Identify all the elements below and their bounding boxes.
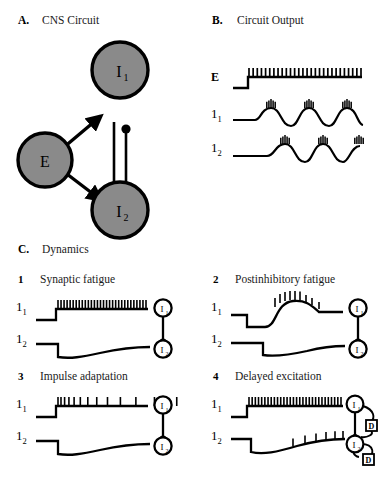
delay-box-upper: D <box>366 420 377 431</box>
svg-text:2: 2 <box>166 448 169 454</box>
node-i1: I 1 <box>92 42 148 98</box>
svg-text:2: 2 <box>124 212 129 223</box>
svg-text:2: 2 <box>358 446 361 452</box>
delay-box-lower-label: D <box>366 456 372 465</box>
panel-c-item-3: 3 Impulse adaptation 11 12 I 1 I 2 <box>0 370 195 465</box>
panel-b-label: B. <box>212 14 223 26</box>
item-2-traces: I 1 I 2 <box>195 287 385 367</box>
delay-box-upper-label: D <box>369 422 375 431</box>
panel-c: C. Dynamics 1 Synaptic fatigue 11 12 I 1… <box>0 225 385 479</box>
svg-text:I: I <box>353 440 356 450</box>
svg-text:I: I <box>116 63 121 80</box>
svg-text:E: E <box>40 153 50 170</box>
item-3-title: Impulse adaptation <box>40 370 128 382</box>
svg-text:1: 1 <box>361 310 364 316</box>
svg-text:I: I <box>161 401 164 411</box>
svg-text:2: 2 <box>361 351 364 357</box>
panel-a-label: A. <box>18 14 29 26</box>
svg-text:2: 2 <box>166 351 169 357</box>
item-1-title: Synaptic fatigue <box>40 273 115 285</box>
circuit-output-traces <box>195 58 385 188</box>
panel-c-item-1: 1 Synaptic fatigue 11 12 I 1 I 2 <box>0 273 195 363</box>
item-1-circuit-icon: I 1 I 2 <box>154 299 171 357</box>
inhibitory-terminal-on-i1 <box>121 124 130 133</box>
svg-text:1: 1 <box>358 406 361 412</box>
item-2-number: 2 <box>213 273 219 285</box>
item-4-title: Delayed excitation <box>235 370 322 382</box>
trace-i2 <box>233 135 363 162</box>
panel-c-label: C. <box>18 243 29 255</box>
panel-b: B. Circuit Output E 11 12 <box>195 0 385 225</box>
item-2-title: Postinhibitory fatigue <box>235 273 335 285</box>
svg-text:1: 1 <box>166 407 169 413</box>
svg-text:I: I <box>356 345 359 355</box>
trace-i1 <box>233 99 363 126</box>
item-3-circuit-icon: I 1 I 2 <box>154 396 171 454</box>
item-1-traces: I 1 I 2 <box>0 287 195 367</box>
svg-text:I: I <box>161 304 164 314</box>
item-4-traces: I 1 I 2 D D <box>195 384 385 470</box>
cns-circuit-diagram: I 1 E I 2 <box>0 38 195 223</box>
panel-a-title: CNS Circuit <box>42 14 99 26</box>
connection-e-to-i1 <box>63 116 101 148</box>
svg-text:I: I <box>161 442 164 452</box>
svg-text:I: I <box>353 400 356 410</box>
svg-text:I: I <box>116 203 121 220</box>
panel-b-title: Circuit Output <box>237 14 304 26</box>
item-3-number: 3 <box>18 370 24 382</box>
panel-c-item-2: 2 Postinhibitory fatigue 11 12 I 1 I 2 <box>195 273 385 363</box>
panel-c-title: Dynamics <box>42 243 89 255</box>
svg-text:I: I <box>161 345 164 355</box>
svg-text:1: 1 <box>124 72 129 83</box>
item-2-circuit-icon: I 1 I 2 <box>349 299 366 357</box>
item-3-traces: I 1 I 2 <box>0 384 195 464</box>
node-e: E <box>18 133 72 187</box>
item-4-number: 4 <box>213 370 219 382</box>
panel-c-item-4: 4 Delayed excitation 11 12 I 1 <box>195 370 385 465</box>
delay-box-lower: D <box>363 454 374 465</box>
panel-a: A. CNS Circuit I 1 E I 2 <box>0 0 195 225</box>
svg-text:1: 1 <box>166 310 169 316</box>
svg-text:I: I <box>356 304 359 314</box>
item-1-number: 1 <box>18 273 24 285</box>
trace-e <box>233 68 362 88</box>
item-4-circuit-icon: I 1 I 2 D D <box>347 396 377 465</box>
